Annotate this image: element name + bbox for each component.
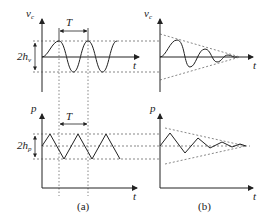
p-sustained-wave (42, 134, 120, 159)
t-axis-label: t (253, 191, 256, 202)
amplitude-label-v: 2hv (17, 51, 31, 64)
period-label: T (66, 17, 72, 28)
panel-b-bottom (137, 114, 253, 188)
vc-axis-label: vc (26, 8, 34, 21)
period-label: T (66, 111, 72, 122)
caption-a: (a) (77, 201, 89, 212)
amplitude-label-p: 2hp (17, 140, 32, 153)
panel-b-top (137, 19, 253, 92)
panel-a-top (33, 19, 139, 92)
vc-axis-label: vc (144, 8, 152, 21)
oscillation-diagram (0, 0, 274, 218)
vc-damped-wave (160, 40, 237, 67)
p-axis-label: p (150, 103, 156, 114)
p-axis-label: p (31, 103, 37, 114)
panel-a-bottom (33, 114, 137, 188)
t-axis-label: t (253, 60, 256, 71)
t-axis-label: t (133, 191, 136, 202)
t-axis-label: t (133, 60, 136, 71)
caption-b: (b) (198, 201, 211, 212)
